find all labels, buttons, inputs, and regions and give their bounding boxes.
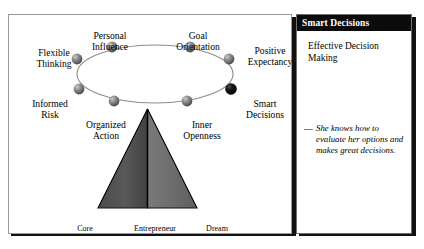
text-panel-shadow-right [412, 17, 416, 236]
node-organized-action[interactable] [109, 96, 120, 107]
text-panel-subtitle: Effective Decision Making [308, 41, 406, 64]
screenshot-root: Flexible Thinking Personal Influence Goa… [0, 0, 424, 249]
quote-em-dash: — [304, 123, 313, 133]
node-label-organized-action: Organized Action [69, 120, 143, 141]
pyramid-base-label-dream: Dream [193, 224, 241, 233]
node-positive-expectancy[interactable] [224, 54, 235, 65]
text-panel-header-title: Smart Decisions [302, 16, 369, 30]
node-inner-openness[interactable] [182, 96, 193, 107]
pyramid-base-label-core: Core [61, 224, 109, 233]
node-smart-decisions[interactable] [225, 83, 237, 95]
text-panel-quote: — She knows how to evaluate her options … [304, 123, 408, 156]
node-informed-risk[interactable] [74, 84, 85, 95]
text-panel: Smart Decisions Effective Decision Makin… [296, 14, 412, 234]
quote-body: She knows how to evaluate her options an… [314, 123, 408, 156]
ring-ellipse [77, 45, 233, 103]
diagram-panel: Flexible Thinking Personal Influence Goa… [8, 14, 292, 234]
node-label-goal-orientation: Goal Orientation [162, 31, 234, 52]
node-label-inner-openness: Inner Openness [171, 120, 233, 141]
node-label-informed-risk: Informed Risk [19, 99, 81, 120]
node-label-personal-influence: Personal Influence [74, 31, 146, 52]
pyramid-base-label-entrepreneur: Entrepreneur [119, 224, 191, 233]
node-label-positive-expectancy: Positive Expectancy [237, 46, 303, 67]
node-label-smart-decisions: Smart Decisions [234, 99, 296, 120]
